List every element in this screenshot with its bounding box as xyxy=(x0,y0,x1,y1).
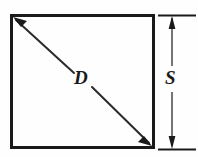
diagonal-label-D: D xyxy=(74,68,88,87)
side-arrowhead-bottom xyxy=(169,136,176,149)
side-arrowhead-top xyxy=(169,16,176,29)
figure-container: D S xyxy=(0,0,198,157)
side-label-S: S xyxy=(165,68,176,87)
diagonal-arrowhead-bottom-right xyxy=(138,136,152,146)
diagonal-arrowhead-top-left xyxy=(13,17,27,27)
